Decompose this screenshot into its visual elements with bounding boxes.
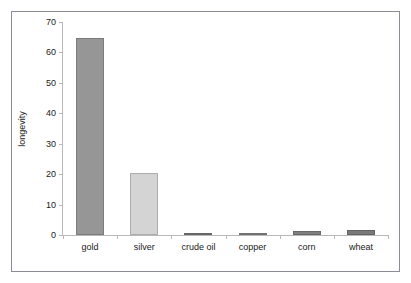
y-axis-tick: [59, 22, 63, 23]
x-axis-tick: [334, 235, 335, 239]
y-axis-tick-label: 0: [51, 230, 56, 240]
y-axis-tick: [59, 83, 63, 84]
x-axis-label: copper: [239, 242, 267, 252]
y-axis-title: longevity: [17, 111, 27, 147]
bar-silver: [130, 173, 158, 235]
bar-copper: [239, 233, 267, 235]
y-axis-tick: [59, 113, 63, 114]
plot-area: 010203040506070 goldsilvercrude oilcoppe…: [62, 22, 388, 236]
y-axis-tick: [59, 52, 63, 53]
y-axis-tick: [59, 144, 63, 145]
x-axis-tick: [117, 235, 118, 239]
y-axis-tick-label: 50: [46, 78, 56, 88]
y-axis-tick-label: 10: [46, 200, 56, 210]
y-axis-tick: [59, 174, 63, 175]
x-axis-label: silver: [134, 242, 155, 252]
y-axis-tick-label: 60: [46, 47, 56, 57]
x-axis-tick: [63, 235, 64, 239]
y-axis-tick-label: 70: [46, 17, 56, 27]
bar-wheat: [347, 230, 375, 235]
y-axis-tick-label: 40: [46, 108, 56, 118]
x-axis-tick: [226, 235, 227, 239]
x-axis-label: corn: [298, 242, 316, 252]
y-axis-tick-label: 20: [46, 169, 56, 179]
y-axis-tick-label: 30: [46, 139, 56, 149]
bar-corn: [293, 231, 321, 235]
x-axis-label: crude oil: [181, 242, 215, 252]
y-axis-tick: [59, 205, 63, 206]
bar-chart-figure: longevity 010203040506070 goldsilvercrud…: [0, 0, 411, 283]
x-axis-tick: [280, 235, 281, 239]
x-axis-label: gold: [82, 242, 99, 252]
x-axis-tick: [171, 235, 172, 239]
bar-crude-oil: [184, 233, 212, 235]
bar-gold: [76, 38, 104, 235]
x-axis-tick: [388, 235, 389, 239]
x-axis-label: wheat: [349, 242, 373, 252]
